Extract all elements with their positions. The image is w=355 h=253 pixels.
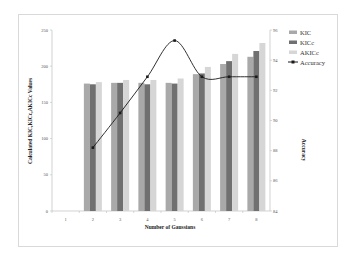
bar-kic [193, 74, 199, 211]
bar-kicc [199, 73, 205, 211]
bar-akicc [205, 67, 211, 211]
x-tick-label: 3 [119, 217, 122, 222]
y2-tick-label: 84 [273, 209, 278, 214]
y-tick-label: 250 [41, 28, 49, 33]
legend-label: KICc [300, 39, 314, 46]
bar-akicc [259, 43, 265, 211]
y-tick-label: 50 [44, 172, 49, 177]
bar-kic [166, 83, 172, 211]
y2-tick-label: 94 [273, 58, 278, 63]
x-tick-label: 6 [201, 217, 204, 222]
y-tick-label: 100 [41, 136, 49, 141]
bar-kic [220, 64, 226, 211]
accuracy-marker [201, 75, 204, 78]
accuracy-marker [228, 75, 231, 78]
accuracy-marker [146, 75, 149, 78]
bar-kicc [253, 51, 259, 211]
bar-kicc [226, 61, 232, 211]
bar-series [84, 43, 266, 211]
legend-swatch-kicc [289, 41, 297, 45]
x-tick-label: 8 [255, 217, 258, 222]
legend: KICKICcAKICcAccuracy [288, 29, 326, 66]
bar-kic [138, 83, 144, 211]
x-tick-label: 7 [228, 217, 231, 222]
x-tick-label: 1 [65, 217, 67, 222]
legend-label: Accuracy [300, 59, 326, 66]
bar-kic [84, 84, 90, 211]
x-tick-label: 5 [174, 217, 177, 222]
bar-akicc [178, 79, 184, 211]
legend-label: AKICc [300, 49, 319, 56]
y2-tick-label: 92 [273, 88, 278, 93]
accuracy-marker [173, 39, 176, 42]
y2-tick-label: 96 [273, 28, 278, 33]
bar-akicc [123, 80, 129, 211]
x-axis-title: Number of Gaussians [145, 224, 196, 230]
accuracy-marker [92, 146, 95, 149]
bar-kicc [117, 83, 123, 211]
y2-tick-label: 86 [273, 178, 278, 183]
bar-akicc [232, 54, 238, 211]
bar-akicc [150, 80, 156, 211]
y2-tick-label: 88 [273, 148, 278, 153]
y-tick-label: 150 [41, 100, 49, 105]
y2-tick-label: 90 [273, 118, 278, 123]
legend-swatch-akicc [289, 51, 297, 55]
bar-kic [247, 57, 253, 211]
legend-label: KIC [300, 29, 311, 36]
y-tick-label: 0 [46, 209, 49, 214]
legend-swatch-kic [289, 31, 297, 35]
accuracy-marker [255, 75, 258, 78]
y-tick-label: 200 [41, 64, 49, 69]
bar-kic [111, 83, 117, 211]
x-tick-label: 4 [146, 217, 149, 222]
bar-akicc [96, 82, 102, 211]
bar-kicc [144, 84, 150, 211]
accuracy-marker [119, 112, 122, 115]
combo-bar-line-chart: 0501001502002508486889092949612345678 KI… [0, 0, 355, 253]
bar-kicc [172, 84, 178, 211]
y2-axis-title: Accuracy [301, 139, 307, 162]
y-axis-title: Calculated KIC,KICc,AKICc Values [27, 78, 33, 164]
x-tick-label: 2 [92, 217, 94, 222]
